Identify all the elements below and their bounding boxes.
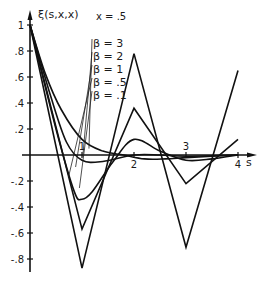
ticks: 1.8.6.4.2-.2-.4-.6-.81234 [11,20,241,265]
axes [22,10,257,272]
x-axis-label: s [246,156,252,169]
legend-label: β = 1 [93,63,123,76]
series-line-3 [30,25,238,162]
y-tick-label: .4 [14,98,24,109]
legend-label: β = .1 [93,89,127,102]
y-axis-label: ξ(s,x,x) [38,8,78,21]
legend-label: β = .5 [93,76,127,89]
legend-leaders [68,39,92,188]
y-tick-label: .8 [14,46,24,57]
y-tick-label: .6 [14,72,24,83]
chart: 1.8.6.4.2-.2-.4-.6-.81234 ξ(s,x,x) x = .… [0,0,261,292]
curves [30,25,238,268]
y-axis-arrow [28,10,33,20]
x-tick-label: 4 [235,159,241,170]
annotation-x-value: x = .5 [96,11,126,22]
legend: β = 3β = 2β = 1β = .5β = .1 [93,37,127,102]
y-tick-label: -.4 [11,202,24,213]
legend-label: β = 2 [93,50,123,63]
y-tick-label: -.2 [11,176,24,187]
y-tick-label: .2 [14,124,24,135]
x-tick-label: 3 [183,141,189,152]
y-tick-label: -.6 [11,228,24,239]
y-tick-label: 1 [18,20,24,31]
y-tick-label: -.8 [11,254,24,265]
legend-label: β = 3 [93,37,123,50]
x-tick-label: 2 [131,159,137,170]
